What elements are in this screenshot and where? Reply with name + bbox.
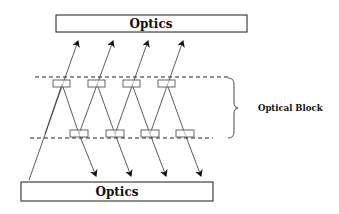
bottom-optics-box: Optics — [21, 182, 213, 201]
top-optics-label: Optics — [129, 17, 172, 31]
optical-block-diagram: Optics Optics O — [0, 0, 339, 214]
top-element-3 — [123, 80, 140, 87]
light-rays — [29, 41, 201, 180]
top-element-1 — [53, 80, 70, 87]
top-element-4 — [158, 80, 175, 87]
top-optics-box: Optics — [56, 15, 247, 32]
curly-brace-icon — [228, 78, 238, 138]
bottom-optics-label: Optics — [95, 185, 138, 199]
optical-block-label: Optical Block — [258, 103, 324, 113]
top-element-2 — [88, 80, 105, 87]
bottom-element-3 — [141, 130, 159, 137]
top-elements — [53, 80, 175, 87]
bottom-element-2 — [106, 130, 124, 137]
bottom-elements — [70, 130, 194, 137]
bottom-element-4 — [176, 130, 194, 137]
bottom-element-1 — [70, 130, 88, 137]
